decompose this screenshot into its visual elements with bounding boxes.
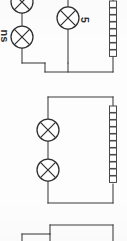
diagram-canvas: 5 ns: [0, 0, 127, 241]
coil-top-right: [110, 0, 117, 56]
label-left-cropped: ns: [0, 30, 11, 43]
coil-link: [110, 15, 117, 21]
circuit-diagram-svg: 5 ns: [0, 0, 127, 241]
lamp-top-right: [57, 7, 79, 29]
coil-link: [110, 134, 117, 140]
coil-link: [110, 22, 117, 28]
coil-link: [110, 43, 117, 49]
coil-link: [110, 50, 117, 56]
lamp-mid-lower: [37, 159, 59, 181]
coil-link: [110, 141, 117, 147]
coil-link: [110, 106, 117, 112]
lamp-top-left-upper: [11, 0, 33, 13]
label-lamp-5: 5: [79, 17, 91, 23]
coil-mid-right: [110, 106, 117, 182]
coil-link: [110, 8, 117, 14]
coil-link: [110, 113, 117, 119]
coil-link: [110, 176, 117, 182]
coil-link: [110, 1, 117, 7]
lamp-mid-upper: [37, 119, 59, 141]
coil-link: [110, 127, 117, 133]
coil-link: [110, 169, 117, 175]
coil-link: [110, 155, 117, 161]
circuit-top: [11, 0, 117, 72]
coil-link: [110, 120, 117, 126]
coil-link: [110, 36, 117, 42]
coil-link: [110, 148, 117, 154]
circuit-bottom: [22, 225, 113, 241]
coil-link: [110, 162, 117, 168]
circuit-middle: [37, 97, 117, 203]
lamp-top-left-lower: [11, 26, 33, 48]
coil-link: [110, 29, 117, 35]
